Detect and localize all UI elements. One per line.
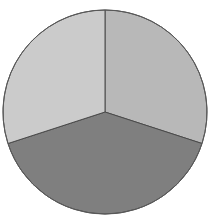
pie-slices xyxy=(3,10,207,214)
pie-chart xyxy=(0,0,210,220)
